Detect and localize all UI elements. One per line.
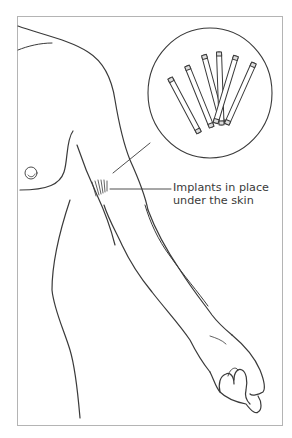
magnified-inset-circle bbox=[148, 28, 272, 158]
torso-outline bbox=[52, 200, 80, 418]
hand-outline bbox=[232, 335, 264, 395]
implants-callout-label: Implants in place under the skin bbox=[173, 181, 269, 207]
callout-label-line-2: under the skin bbox=[173, 194, 269, 207]
arm-illustration bbox=[0, 0, 292, 438]
implant-rods bbox=[168, 52, 256, 134]
callout-label-line-1: Implants in place bbox=[173, 181, 269, 194]
outer-arm-outline bbox=[148, 210, 232, 335]
inset-leader-line bbox=[113, 143, 150, 173]
shoulder-outline bbox=[18, 26, 148, 210]
breast-outline bbox=[20, 131, 73, 190]
